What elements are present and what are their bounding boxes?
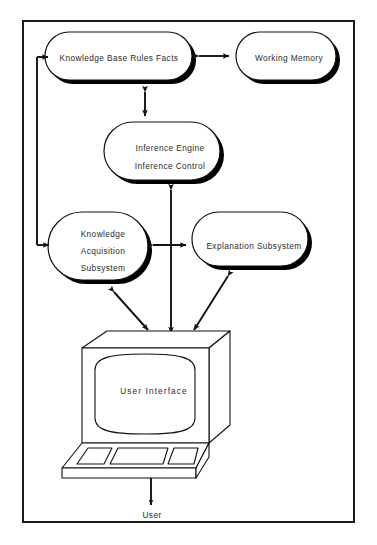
connector-ka-ui — [114, 292, 148, 330]
monitor-screen — [95, 354, 195, 434]
connector-ex-ui — [194, 276, 228, 330]
node-explanation-subsystem — [192, 212, 308, 266]
keyboard-front-lip — [62, 468, 196, 478]
node-knowledge-acquisition-subsystem — [48, 212, 148, 280]
node-working-memory — [236, 32, 336, 80]
user-interface-terminal — [62, 331, 230, 478]
node-inference-engine — [104, 122, 220, 180]
node-knowledge-base — [45, 32, 192, 80]
monitor-top-face — [82, 331, 230, 348]
monitor-side-face — [209, 331, 230, 443]
diagram-canvas: Knowledge Base Rules Facts Working Memor… — [0, 0, 377, 545]
diagram-graphics — [0, 0, 377, 545]
key-block-center — [110, 448, 168, 464]
